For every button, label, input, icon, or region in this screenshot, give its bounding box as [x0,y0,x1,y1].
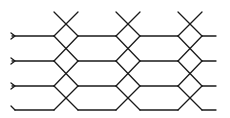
wires-segment-2 [78,36,116,110]
input-arrow-icons [11,33,15,110]
output-wires [202,36,216,110]
wire-crossing-diagram [0,0,230,118]
crossing-group-1 [54,12,78,110]
crossing-group-3 [178,12,202,110]
crossing-group-2 [116,12,140,110]
input-wires [12,36,54,110]
wires-segment-3 [140,36,178,110]
